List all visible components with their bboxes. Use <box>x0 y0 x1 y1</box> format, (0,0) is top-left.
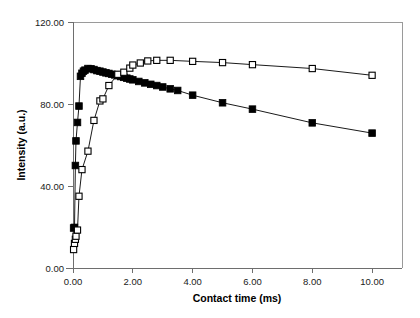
data-point-marker <box>167 57 173 63</box>
data-point-marker <box>74 227 80 233</box>
data-point-marker <box>249 62 255 68</box>
data-point-marker <box>106 82 112 88</box>
x-tick-label: 4.00 <box>183 276 202 287</box>
data-point-marker <box>154 57 160 63</box>
data-point-marker <box>159 84 166 91</box>
data-point-marker <box>72 162 79 169</box>
data-point-marker <box>85 148 91 154</box>
data-point-marker <box>79 167 85 173</box>
data-point-marker <box>145 58 151 64</box>
chart-figure: 0.0040.0080.00120.00 0.002.004.006.008.0… <box>0 0 420 318</box>
data-point-marker <box>219 59 225 65</box>
data-point-marker <box>137 60 143 66</box>
data-point-marker <box>130 62 136 68</box>
data-point-marker <box>309 120 316 127</box>
data-point-marker <box>167 86 174 93</box>
x-tick-label: 10.00 <box>360 276 384 287</box>
data-point-marker <box>91 117 97 123</box>
data-point-marker <box>369 130 376 137</box>
data-point-marker <box>115 71 121 77</box>
data-point-marker <box>219 99 226 106</box>
y-tick-label: 80.00 <box>40 99 64 110</box>
data-point-marker <box>73 138 80 145</box>
data-point-marker <box>309 65 315 71</box>
data-point-marker <box>174 87 181 94</box>
data-point-marker <box>190 58 196 64</box>
data-point-marker <box>76 193 82 199</box>
data-point-marker <box>100 96 106 102</box>
x-tick-label: 6.00 <box>243 276 262 287</box>
contact-time-intensity-plot: 0.0040.0080.00120.00 0.002.004.006.008.0… <box>0 0 420 318</box>
y-tick-label: 0.00 <box>46 263 65 274</box>
x-tick-label: 2.00 <box>124 276 143 287</box>
x-tick-label: 0.00 <box>64 276 83 287</box>
data-point-marker <box>369 72 375 78</box>
data-point-marker <box>71 246 77 252</box>
y-axis-title: Intensity (a.u.) <box>15 109 27 180</box>
data-point-marker <box>73 233 79 239</box>
data-point-marker <box>189 92 196 99</box>
data-point-marker <box>249 106 256 113</box>
x-tick-label: 8.00 <box>303 276 322 287</box>
y-tick-label: 40.00 <box>40 181 64 192</box>
data-point-marker <box>121 69 127 75</box>
x-axis-title: Contact time (ms) <box>193 292 282 304</box>
y-tick-label: 120.00 <box>35 17 64 28</box>
data-point-marker <box>74 119 81 126</box>
data-point-marker <box>76 103 83 110</box>
